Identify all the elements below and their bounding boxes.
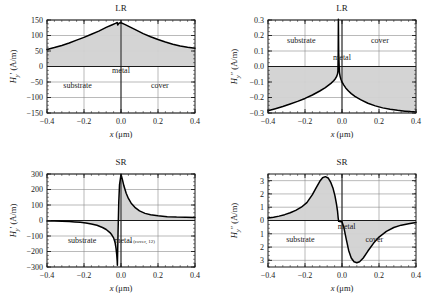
x-tick-label: −0.4: [261, 271, 276, 280]
plot-panel-lr-hy-real: LR150100500−50−100−150−0.4−0.20.00.20.4x…: [0, 0, 221, 153]
svg-text:Hy′ (A/m): Hy′ (A/m): [8, 50, 20, 85]
x-tick-label: 0.2: [153, 117, 163, 126]
region-label: cover: [151, 81, 169, 90]
y-tick-label: −50: [30, 78, 43, 87]
region-label: metal: [112, 66, 131, 75]
y-axis-label: Hy″ (A/m): [229, 203, 241, 239]
y-tick-label: 150: [31, 16, 43, 25]
plot-panel-lr-hy-imag: LR0.30.20.10.0−0.1−0.2−0.3−0.4−0.20.00.2…: [221, 0, 442, 153]
x-axis-label: x (μm): [330, 129, 354, 139]
y-tick-label: 0: [39, 62, 43, 71]
region-label: metal: [333, 53, 352, 62]
x-tick-label: 0.2: [374, 117, 384, 126]
region-label: substrate: [63, 81, 92, 90]
y-axis-label: Hy′ (A/m): [8, 50, 20, 85]
svg-text:Hy″ (A/m): Hy″ (A/m): [229, 203, 241, 239]
y-tick-label: 1: [260, 230, 264, 239]
svg-text:x (μm): x (μm): [109, 283, 133, 293]
region-label: substrate: [287, 36, 316, 45]
x-tick-label: 0.0: [337, 271, 347, 280]
x-tick-label: 0.2: [153, 271, 163, 280]
x-tick-label: −0.2: [298, 271, 313, 280]
svg-text:x (μm): x (μm): [109, 129, 133, 139]
svg-text:x (μm): x (μm): [330, 129, 354, 139]
y-tick-label: 3: [260, 256, 264, 265]
x-tick-label: −0.4: [40, 271, 55, 280]
y-tick-label: 3: [260, 177, 264, 186]
plot-panel-sr-hy-imag: SR3210123−0.4−0.20.00.20.4x (μm)Hy″ (A/m…: [221, 154, 442, 307]
y-tick-label: 0: [39, 216, 43, 225]
y-tick-label: 2: [260, 243, 264, 252]
y-tick-label: 300: [31, 170, 43, 179]
figure-container: LR150100500−50−100−150−0.4−0.20.00.20.4x…: [0, 0, 442, 307]
x-tick-label: 0.0: [116, 117, 126, 126]
x-tick-label: 0.0: [116, 271, 126, 280]
y-tick-label: 1: [260, 203, 264, 212]
y-tick-label: −100: [26, 93, 43, 102]
x-tick-label: 0.0: [337, 117, 347, 126]
region-label: metal: [338, 222, 357, 231]
x-tick-label: 0.4: [190, 117, 200, 126]
y-tick-label: 100: [31, 31, 43, 40]
x-axis-label: x (μm): [330, 283, 354, 293]
x-tick-label: −0.2: [77, 117, 92, 126]
x-tick-label: −0.4: [40, 117, 55, 126]
x-tick-label: 0.2: [374, 271, 384, 280]
region-label: cover: [365, 235, 383, 244]
y-tick-label: 0.1: [254, 47, 264, 56]
y-tick-label: 200: [31, 185, 43, 194]
x-tick-label: −0.4: [261, 117, 276, 126]
y-tick-label: 0.3: [254, 16, 264, 25]
y-tick-label: −0.2: [249, 93, 264, 102]
svg-text:Hy′ (A/m): Hy′ (A/m): [8, 204, 20, 239]
y-tick-label: 50: [35, 47, 43, 56]
x-tick-label: 0.4: [190, 271, 200, 280]
x-tick-label: 0.4: [411, 117, 421, 126]
plot-title: LR: [336, 3, 348, 13]
y-axis-label: Hy″ (A/m): [229, 49, 241, 85]
y-tick-label: 2: [260, 190, 264, 199]
y-tick-label: −100: [26, 232, 43, 241]
region-label: substrate: [68, 236, 97, 245]
x-tick-label: 0.4: [411, 271, 421, 280]
y-tick-label: −200: [26, 247, 43, 256]
y-tick-label: −0.1: [249, 78, 264, 87]
svg-text:Hy″ (A/m): Hy″ (A/m): [229, 49, 241, 85]
y-tick-label: 0: [260, 216, 264, 225]
y-tick-label: 100: [31, 201, 43, 210]
plot-title: SR: [336, 157, 347, 167]
plot-title: SR: [115, 157, 126, 167]
region-label: cover: [371, 36, 389, 45]
y-tick-label: 0.0: [254, 62, 264, 71]
x-tick-label: −0.2: [77, 271, 92, 280]
y-axis-label: Hy′ (A/m): [8, 204, 20, 239]
x-tick-label: −0.2: [298, 117, 313, 126]
y-tick-label: 0.2: [254, 31, 264, 40]
x-axis-label: x (μm): [109, 283, 133, 293]
plot-title: LR: [115, 3, 127, 13]
x-axis-label: x (μm): [109, 129, 133, 139]
svg-text:x (μm): x (μm): [330, 283, 354, 293]
region-label: substrate: [286, 235, 315, 244]
plot-panel-sr-hy-real: SR3002001000−100−200−300−0.4−0.20.00.20.…: [0, 154, 221, 307]
